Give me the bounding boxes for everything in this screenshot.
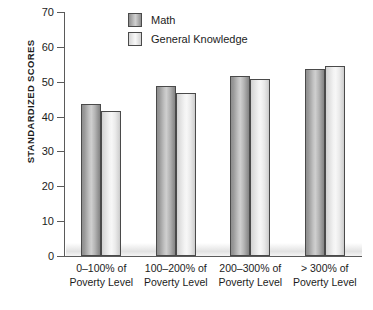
x-axis-labels: 0–100% ofPoverty Level100–200% ofPoverty…	[64, 261, 362, 289]
x-axis-label-line: > 300% of	[288, 261, 363, 275]
bar-general-knowledge	[325, 66, 345, 256]
x-axis-label-line: Poverty Level	[139, 275, 214, 289]
x-axis-label-line: Poverty Level	[288, 275, 363, 289]
bar-group	[139, 12, 214, 256]
x-axis-label: > 300% ofPoverty Level	[288, 261, 363, 289]
y-tick-label-20: 20	[42, 180, 54, 192]
x-axis-line	[64, 256, 362, 257]
x-axis-label-line: 0–100% of	[64, 261, 139, 275]
y-tick-label-70: 70	[42, 6, 54, 18]
bar-group	[213, 12, 288, 256]
y-tick-50	[57, 82, 64, 83]
y-tick-70	[57, 12, 64, 13]
plot-area: 010203040506070	[64, 12, 362, 256]
x-axis-label: 100–200% ofPoverty Level	[139, 261, 214, 289]
bar-math	[305, 69, 325, 256]
y-tick-40	[57, 117, 64, 118]
bar-math	[230, 76, 250, 256]
y-tick-0	[57, 256, 64, 257]
x-axis-label-line: Poverty Level	[213, 275, 288, 289]
y-tick-label-10: 10	[42, 215, 54, 227]
bar-general-knowledge	[101, 111, 121, 256]
y-axis-title: STANDARDIZED SCORES	[25, 2, 36, 202]
bar-groups	[64, 12, 362, 256]
y-tick-label-60: 60	[42, 41, 54, 53]
y-tick-60	[57, 47, 64, 48]
bar-math	[81, 104, 101, 256]
y-tick-label-50: 50	[42, 76, 54, 88]
x-axis-label-line: 200–300% of	[213, 261, 288, 275]
y-tick-label-30: 30	[42, 145, 54, 157]
y-tick-10	[57, 221, 64, 222]
x-axis-label: 200–300% ofPoverty Level	[213, 261, 288, 289]
bar-general-knowledge	[176, 93, 196, 256]
y-tick-label-0: 0	[48, 250, 54, 262]
x-axis-label-line: Poverty Level	[64, 275, 139, 289]
bar-group	[64, 12, 139, 256]
y-tick-label-40: 40	[42, 111, 54, 123]
x-axis-label: 0–100% ofPoverty Level	[64, 261, 139, 289]
y-tick-30	[57, 151, 64, 152]
y-tick-20	[57, 186, 64, 187]
bar-chart: STANDARDIZED SCORES Math General Knowled…	[0, 0, 373, 310]
x-axis-label-line: 100–200% of	[139, 261, 214, 275]
bar-group	[288, 12, 363, 256]
bar-general-knowledge	[250, 79, 270, 256]
bar-math	[156, 86, 176, 256]
